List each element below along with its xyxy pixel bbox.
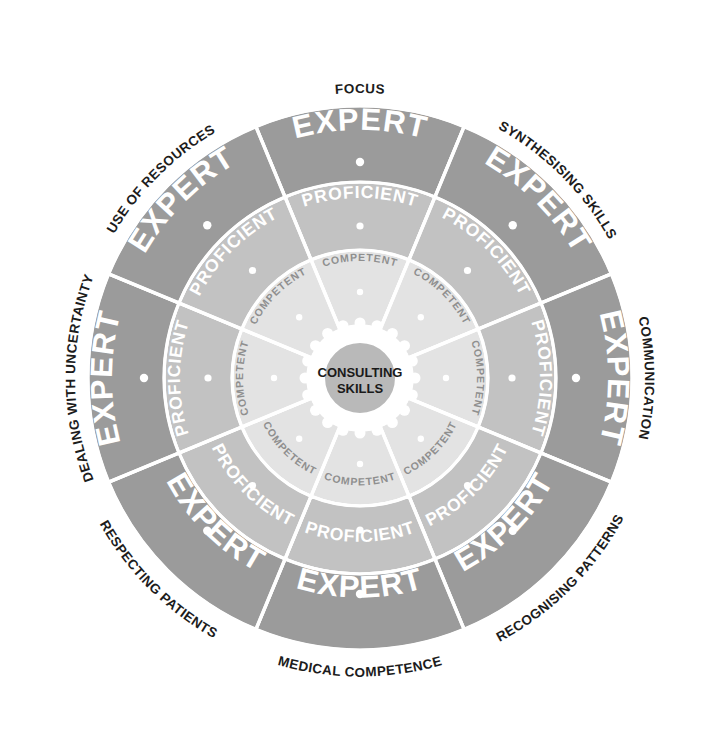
level-marker-dot	[296, 436, 302, 442]
sector-label-communication: COMMUNICATION	[636, 315, 657, 441]
level-marker-dot	[249, 267, 256, 274]
level-marker-dot	[508, 374, 515, 381]
level-marker-dot	[271, 375, 277, 381]
level-marker-dot	[204, 374, 211, 381]
sector-label-medical-competence: MEDICAL COMPETENCE	[276, 653, 443, 679]
level-marker-dot	[356, 222, 363, 229]
level-marker-dot	[443, 375, 449, 381]
hub-label-line1: CONSULTING	[318, 365, 403, 380]
hub-label-line2: SKILLS	[337, 381, 384, 396]
level-marker-dot	[572, 374, 580, 382]
level-marker-dot	[356, 158, 364, 166]
level-marker-dot	[296, 314, 302, 320]
wheel-svg: COMPETENTCOMPETENTCOMPETENTCOMPETENTCOMP…	[0, 0, 720, 740]
level-marker-dot	[357, 461, 363, 467]
competency-wheel-diagram: COMPETENTCOMPETENTCOMPETENTCOMPETENTCOMP…	[0, 0, 720, 740]
level-marker-dot	[509, 221, 517, 229]
level-marker-dot	[418, 436, 424, 442]
sector-label-focus: FOCUS	[335, 81, 386, 97]
level-marker-dot	[418, 314, 424, 320]
level-marker-dot	[203, 221, 211, 229]
level-marker-dot	[357, 289, 363, 295]
level-marker-dot	[140, 374, 148, 382]
level-marker-dot	[464, 267, 471, 274]
